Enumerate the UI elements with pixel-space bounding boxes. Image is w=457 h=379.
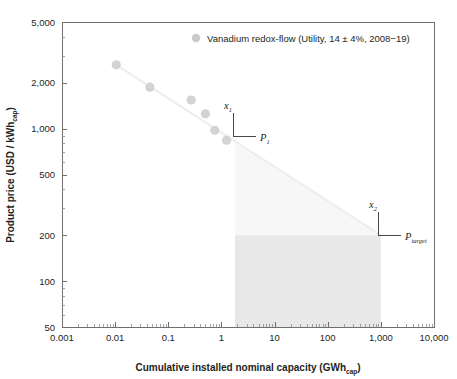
ptarget-label: Ptarget	[404, 231, 427, 244]
x-axis-title: Cumulative installed nominal capacity (G…	[135, 362, 360, 376]
data-point	[112, 60, 121, 69]
x-axis-title-main: Cumulative installed nominal capacity (G…	[135, 362, 346, 373]
p1-label: P1	[259, 132, 270, 145]
x-tick-label: 1,000	[369, 332, 393, 343]
y-tick-label: 500	[39, 169, 55, 180]
x-tick-label: 100	[320, 332, 336, 343]
chart-legend: Vanadium redox-flow (Utility, 14 ± 4%, 2…	[192, 33, 410, 44]
data-point	[187, 95, 196, 104]
x1-label: x1	[223, 100, 232, 113]
experience-curve-chart: 0.0010.010.11101001,00010,000 5,0002,000…	[0, 0, 457, 379]
legend-marker-vanadium	[192, 34, 200, 42]
y-tick-label: 200	[39, 230, 55, 241]
y-tick-label: 50	[44, 322, 55, 333]
data-point	[201, 109, 210, 118]
chart-canvas: 0.0010.010.11101001,00010,000 5,0002,000…	[0, 0, 457, 379]
x2-ptarget-leader-line	[379, 212, 402, 236]
y-tick-label: 100	[39, 276, 55, 287]
y-axis-tick-labels: 5,0002,0001,00050020010050	[31, 17, 55, 333]
y-tick-label: 1,000	[31, 123, 55, 134]
x-tick-label: 1	[219, 332, 224, 343]
y-axis-title-main: Product price (USD / kWh	[5, 122, 16, 243]
y-tick-label: 5,000	[31, 17, 55, 28]
x2-label: x2	[368, 199, 378, 212]
y-axis-title-tail: )	[5, 107, 16, 110]
x-axis-title-subscript: cap	[346, 368, 357, 376]
shaded-regions	[235, 141, 381, 327]
y-axis-title: Product price (USD / kWhcap)	[5, 107, 19, 243]
y-tick-label: 2,000	[31, 77, 55, 88]
x-axis-title-tail: )	[357, 362, 360, 373]
data-point	[210, 126, 219, 135]
y-axis-title-subscript: cap	[11, 110, 19, 121]
x1-p1-leader-line	[234, 113, 257, 137]
x-tick-label: 10,000	[419, 332, 448, 343]
x-axis-tick-labels: 0.0010.010.11101001,00010,000	[50, 332, 448, 343]
x-tick-label: 0.01	[106, 332, 125, 343]
data-point	[145, 83, 154, 92]
x-tick-label: 10	[269, 332, 280, 343]
x-tick-label: 0.1	[162, 332, 175, 343]
legend-label-vanadium: Vanadium redox-flow (Utility, 14 ± 4%, 2…	[207, 33, 410, 44]
data-point	[222, 136, 231, 145]
target-price-block	[235, 235, 381, 327]
x-tick-label: 0.001	[50, 332, 74, 343]
